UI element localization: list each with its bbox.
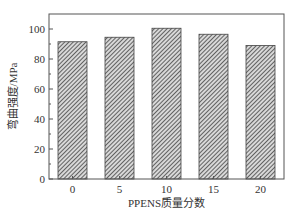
x-axis-title: PPENS质量分数 [128, 197, 205, 209]
y-tick-label: 100 [29, 23, 46, 35]
bar-10 [152, 28, 181, 179]
bar-15 [199, 34, 228, 179]
x-tick-label: 15 [208, 183, 220, 195]
bar-chart: 020406080100 05101520 PPENS质量分数 弯曲强度/MPa [0, 0, 294, 218]
bar-20 [246, 46, 275, 180]
y-axis-title: 弯曲强度/MPa [6, 62, 19, 130]
y-tick-label: 20 [34, 143, 46, 155]
x-tick-label: 5 [117, 183, 123, 195]
x-tick-label: 20 [255, 183, 267, 195]
bar-0 [58, 42, 87, 179]
x-tick-label: 0 [70, 183, 76, 195]
x-tick-label: 10 [161, 183, 173, 195]
y-tick-label: 0 [40, 173, 46, 185]
y-tick-label: 80 [34, 53, 46, 65]
y-tick-label: 60 [34, 83, 46, 95]
bars-group [58, 28, 275, 179]
bar-5 [105, 37, 134, 179]
y-tick-label: 40 [34, 113, 46, 125]
